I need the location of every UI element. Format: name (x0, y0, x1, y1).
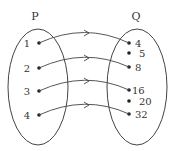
arrowhead-icon (84, 55, 89, 61)
arrow-2-to-8 (39, 57, 129, 68)
q-dot-5 (127, 51, 131, 55)
set-p-ellipse (8, 29, 68, 145)
arrowhead-icon (84, 30, 89, 36)
q-element-5: 5 (139, 48, 145, 59)
arrow-1-to-4 (39, 33, 129, 44)
mapping-diagram: P Q 1 2 3 4 4 5 8 16 20 32 (0, 0, 173, 151)
set-q-label: Q (131, 10, 140, 23)
q-element-8: 8 (135, 62, 141, 73)
arrowhead-icon (84, 78, 89, 84)
arrow-4-to-32 (39, 104, 129, 115)
arrow-3-to-16 (39, 80, 129, 91)
q-element-32: 32 (135, 109, 148, 120)
arrowhead-icon (84, 102, 89, 108)
q-dot-20 (127, 99, 131, 103)
set-p-label: P (31, 10, 39, 23)
q-element-16: 16 (132, 85, 145, 96)
p-element-1: 1 (24, 38, 30, 49)
q-element-20: 20 (139, 96, 152, 107)
p-element-4: 4 (24, 110, 30, 121)
p-element-2: 2 (24, 63, 30, 74)
p-element-3: 3 (24, 86, 30, 97)
